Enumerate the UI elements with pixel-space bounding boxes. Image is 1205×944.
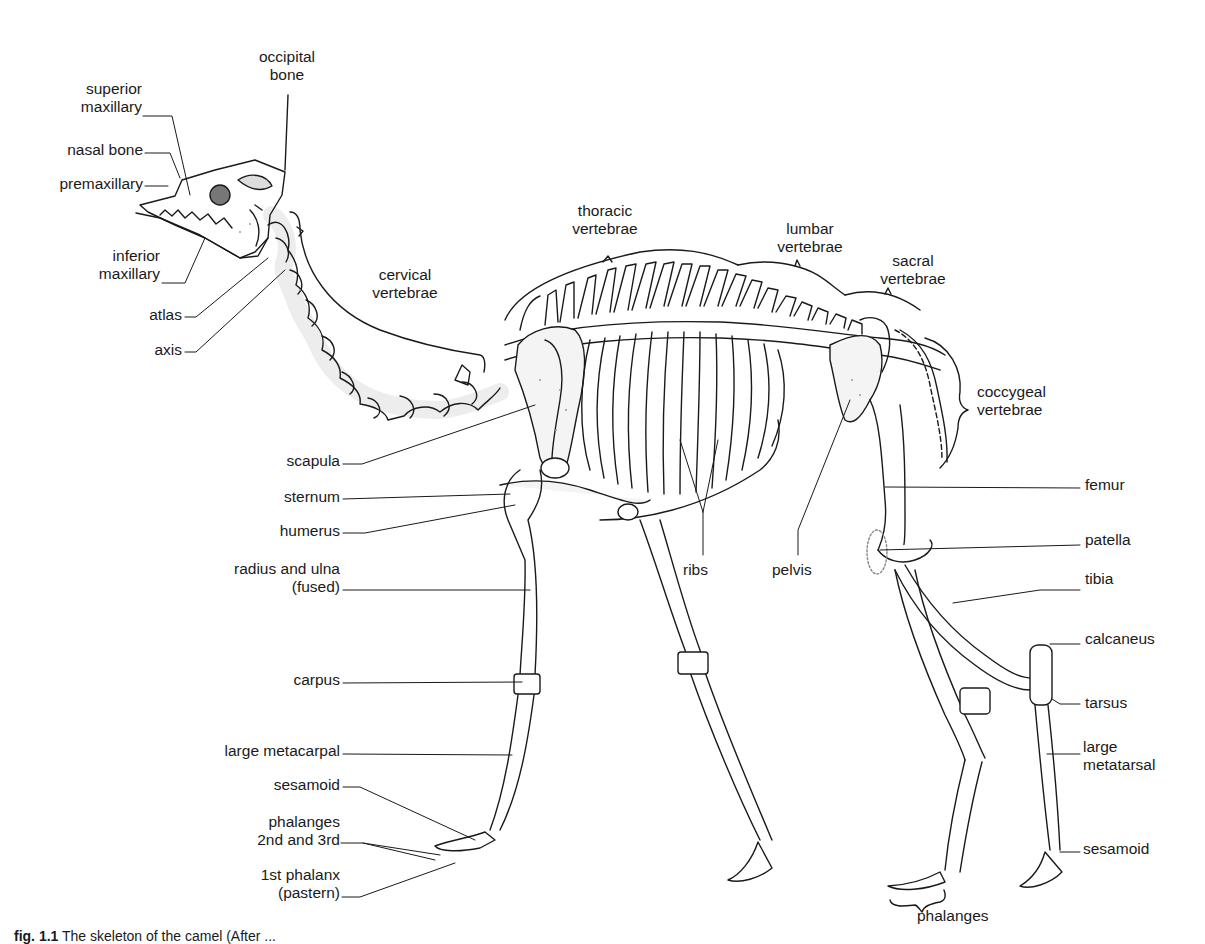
- scapula: [515, 327, 585, 472]
- label-line: radius and ulna: [180, 560, 340, 578]
- label-line: (pastern): [200, 884, 340, 902]
- label-humerus: humerus: [240, 522, 340, 540]
- label-axis: axis: [100, 341, 182, 359]
- label-scapula: scapula: [240, 452, 340, 470]
- label-phalanges-2nd-3rd: phalanges 2nd and 3rd: [200, 813, 340, 849]
- label-tarsus: tarsus: [1085, 694, 1127, 712]
- label-line: vertebrae: [350, 284, 460, 302]
- label-atlas: atlas: [100, 306, 182, 324]
- label-line: vertebrae: [977, 401, 1046, 419]
- label-thoracic-vertebrae: thoracic vertebrae: [550, 202, 660, 238]
- front-leg-near: [435, 470, 542, 851]
- label-lumbar-vertebrae: lumbar vertebrae: [755, 220, 865, 256]
- label-line: (fused): [180, 578, 340, 596]
- label-sternum: sternum: [240, 488, 340, 506]
- skull: [136, 160, 285, 258]
- label-premaxillary: premaxillary: [20, 175, 143, 193]
- label-tibia: tibia: [1085, 570, 1113, 588]
- label-line: occipital: [244, 48, 330, 66]
- label-line: bone: [244, 66, 330, 84]
- ribcage: [582, 332, 785, 520]
- label-phalanges-hind: phalanges: [917, 907, 989, 925]
- caption-text: The skeleton of the camel (After ...: [62, 928, 276, 944]
- label-superior-maxillary: superior maxillary: [50, 80, 142, 116]
- label-inferior-maxillary: inferior maxillary: [60, 247, 160, 283]
- hind-leg-far: [888, 570, 990, 889]
- label-sesamoid-front: sesamoid: [240, 776, 340, 794]
- caption-label: fig. 1.1: [14, 928, 58, 944]
- label-line: large: [1083, 738, 1155, 756]
- label-coccygeal-vertebrae: coccygeal vertebrae: [977, 383, 1046, 419]
- label-line: coccygeal: [977, 383, 1046, 401]
- label-calcaneus: calcaneus: [1085, 630, 1155, 648]
- label-large-metatarsal: large metatarsal: [1083, 738, 1155, 774]
- label-patella: patella: [1085, 531, 1131, 549]
- label-carpus: carpus: [240, 671, 340, 689]
- label-line: phalanges: [200, 813, 340, 831]
- figure-caption: fig. 1.1 The skeleton of the camel (Afte…: [14, 928, 276, 944]
- label-first-phalanx: 1st phalanx (pastern): [200, 866, 340, 902]
- label-line: vertebrae: [858, 270, 968, 288]
- label-occipital-bone: occipital bone: [244, 48, 330, 84]
- label-line: lumbar: [755, 220, 865, 238]
- label-line: metatarsal: [1083, 756, 1155, 774]
- label-line: cervical: [350, 266, 460, 284]
- label-line: 2nd and 3rd: [200, 831, 340, 849]
- label-line: thoracic: [550, 202, 660, 220]
- camel-skeleton-illustration: [0, 0, 1205, 944]
- label-line: superior: [50, 80, 142, 98]
- label-line: vertebrae: [550, 220, 660, 238]
- label-line: vertebrae: [755, 238, 865, 256]
- label-line: maxillary: [50, 98, 142, 116]
- label-sacral-vertebrae: sacral vertebrae: [858, 252, 968, 288]
- label-line: 1st phalanx: [200, 866, 340, 884]
- label-line: sacral: [858, 252, 968, 270]
- label-line: inferior: [60, 247, 160, 265]
- label-nasal-bone: nasal bone: [30, 141, 143, 159]
- label-pelvis: pelvis: [772, 561, 812, 579]
- label-cervical-vertebrae: cervical vertebrae: [350, 266, 460, 302]
- hind-leg-near: [870, 400, 1062, 887]
- thoracic-spines: [520, 262, 862, 334]
- label-large-metacarpal: large metacarpal: [150, 742, 340, 760]
- label-radius-ulna: radius and ulna (fused): [180, 560, 340, 596]
- label-line: maxillary: [60, 265, 160, 283]
- label-sesamoid-hind: sesamoid: [1083, 840, 1149, 858]
- label-femur: femur: [1085, 476, 1125, 494]
- label-ribs: ribs: [683, 561, 708, 579]
